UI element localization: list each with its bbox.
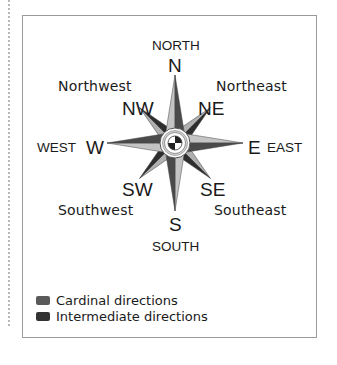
compass-hub bbox=[160, 128, 190, 158]
label-southwest-name: Southwest bbox=[58, 203, 133, 217]
label-southeast-abbr: SE bbox=[200, 180, 225, 199]
label-north-name: NORTH bbox=[152, 39, 200, 53]
label-west-name: WEST bbox=[37, 141, 76, 155]
label-southwest-abbr: SW bbox=[122, 180, 153, 199]
label-east-abbr: E bbox=[248, 138, 261, 157]
legend: Cardinal directions Intermediate directi… bbox=[36, 292, 208, 324]
label-northwest-name: Northwest bbox=[58, 79, 132, 93]
legend-label-cardinal: Cardinal directions bbox=[56, 293, 178, 308]
legend-label-intermediate: Intermediate directions bbox=[56, 309, 208, 324]
label-northeast-name: Northeast bbox=[216, 79, 287, 93]
label-northwest-abbr: NW bbox=[122, 99, 154, 118]
label-south-name: SOUTH bbox=[152, 240, 199, 254]
label-southeast-name: Southeast bbox=[214, 203, 286, 217]
label-north-abbr: N bbox=[168, 56, 182, 75]
legend-swatch-intermediate bbox=[36, 312, 50, 321]
label-east-name: EAST bbox=[267, 141, 302, 155]
legend-item-cardinal: Cardinal directions bbox=[36, 292, 208, 308]
legend-swatch-cardinal bbox=[36, 296, 50, 305]
label-west-abbr: W bbox=[86, 138, 104, 157]
label-northeast-abbr: NE bbox=[198, 99, 224, 118]
legend-item-intermediate: Intermediate directions bbox=[36, 308, 208, 324]
label-south-abbr: S bbox=[169, 215, 182, 234]
